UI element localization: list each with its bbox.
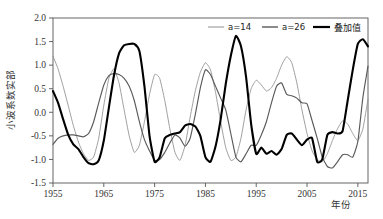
x-tick-label: 1955 (44, 189, 63, 199)
series-line-a14 (53, 56, 368, 162)
legend-label-a14: a=14 (228, 22, 251, 32)
y-tick-label: 2.0 (34, 13, 46, 23)
chart-legend: a=14 a=26 叠加值 (208, 22, 361, 33)
wavelet-chart-figure: 2.01.51.00.50.0-0.5-1.0-1.5 195519651975… (0, 0, 383, 219)
x-tick-label: 1975 (145, 189, 164, 199)
y-tick-label: 0.5 (34, 84, 46, 94)
x-tick-label: 1965 (94, 189, 113, 199)
y-tick-label: -0.5 (31, 131, 46, 141)
y-axis-title: 小波系数实部 (5, 70, 16, 130)
legend-label-sum: 叠加值 (334, 22, 361, 33)
x-tick-label: 1995 (247, 189, 266, 199)
x-tick-label: 2015 (348, 189, 367, 199)
y-tick-label: 0.0 (34, 108, 46, 118)
y-axis-ticks: 2.01.51.00.50.0-0.5-1.0-1.5 (31, 13, 53, 188)
y-tick-label: -1.5 (31, 178, 46, 188)
x-axis-ticks: 1955196519751985199520052015 (44, 183, 368, 199)
x-tick-label: 2005 (298, 189, 317, 199)
x-tick-label: 1985 (196, 189, 215, 199)
y-tick-label: -1.0 (31, 155, 46, 165)
series-line-sum (53, 36, 368, 164)
data-series-group (53, 36, 368, 168)
x-axis-title: 年份 (331, 199, 351, 210)
chart-canvas: 2.01.51.00.50.0-0.5-1.0-1.5 195519651975… (0, 0, 383, 219)
legend-label-a26: a=26 (282, 22, 305, 32)
y-tick-label: 1.5 (34, 37, 46, 47)
y-tick-label: 1.0 (34, 60, 46, 70)
